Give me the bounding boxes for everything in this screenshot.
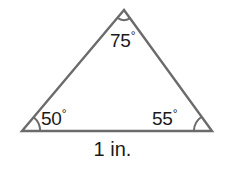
bottom-right-angle-label: 55° <box>152 108 177 128</box>
apex-angle-label: 75° <box>110 30 135 50</box>
degree-symbol: ° <box>131 29 136 43</box>
bottom-left-angle-label: 50° <box>41 108 66 128</box>
degree-symbol: ° <box>62 107 67 121</box>
apex-angle-arc <box>117 18 130 20</box>
geometry-figure: 75° 50° 55° 1 in. <box>0 0 225 172</box>
bottom-left-angle-arc <box>34 117 41 131</box>
bottom-right-angle-arc <box>194 117 202 131</box>
degree-symbol: ° <box>173 107 178 121</box>
base-length-label: 1 in. <box>0 139 225 159</box>
